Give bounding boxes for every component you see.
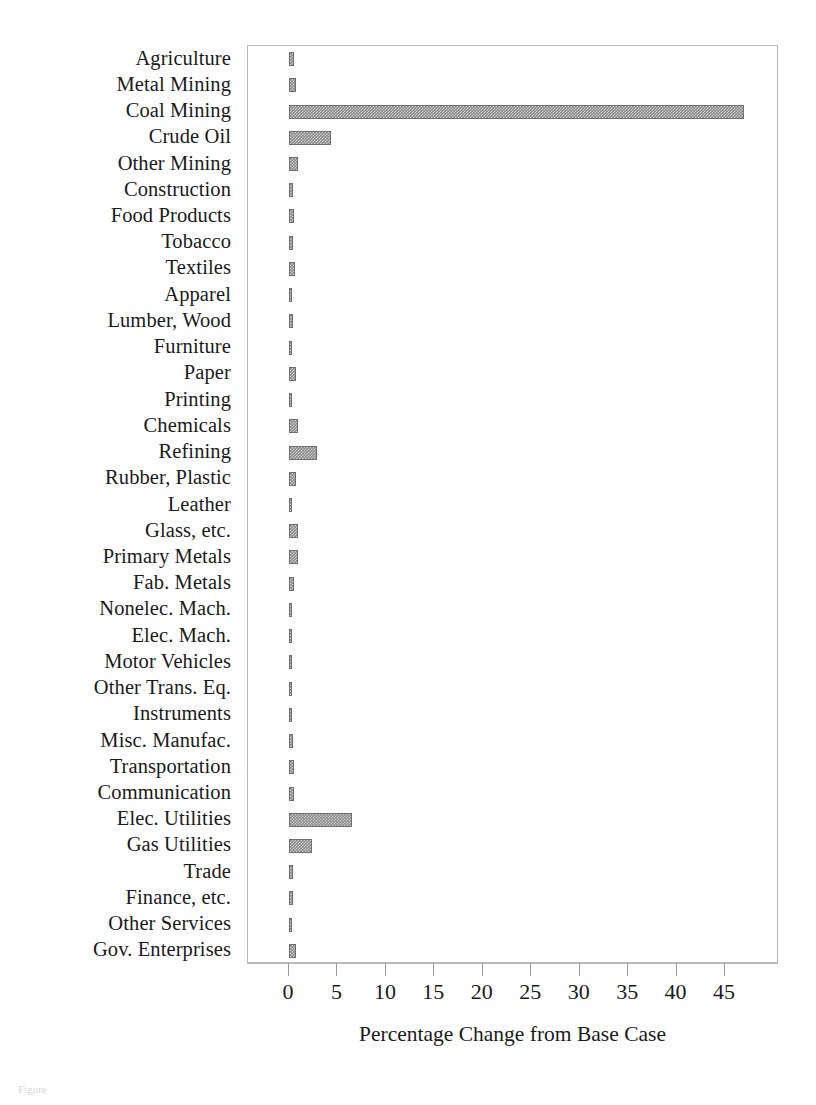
y-axis-tick-label: Nonelec. Mach. (0, 598, 231, 619)
x-axis-line (247, 963, 778, 964)
bar (289, 341, 292, 355)
x-axis-tick (385, 963, 386, 976)
figure-bar-chart: AgricultureMetal MiningCoal MiningCrude … (0, 0, 816, 1105)
bar (289, 524, 298, 538)
bar (289, 603, 292, 617)
y-axis-tick-label: Gov. Enterprises (0, 939, 231, 960)
y-axis-tick-label: Other Mining (0, 153, 231, 174)
y-axis-tick-label: Metal Mining (0, 74, 231, 95)
y-axis-tick-label: Gas Utilities (0, 834, 231, 855)
bar (289, 393, 292, 407)
bar (289, 787, 294, 801)
y-axis-tick-label: Elec. Mach. (0, 625, 231, 646)
bar (289, 472, 296, 486)
bar (289, 131, 331, 145)
y-axis-tick-label: Finance, etc. (0, 887, 231, 908)
y-axis-tick-label: Paper (0, 362, 231, 383)
bar (289, 183, 293, 197)
figure-caption: Figure (18, 1084, 47, 1095)
bar (289, 236, 293, 250)
y-axis-tick-label: Fab. Metals (0, 572, 231, 593)
y-axis-tick-label: Communication (0, 782, 231, 803)
y-axis-tick-label: Refining (0, 441, 231, 462)
plot-frame (247, 45, 778, 963)
x-axis-title: Percentage Change from Base Case (247, 1024, 778, 1046)
y-axis-category-labels: AgricultureMetal MiningCoal MiningCrude … (0, 45, 239, 963)
y-axis-tick-label: Rubber, Plastic (0, 467, 231, 488)
bar (289, 157, 298, 171)
bar (289, 629, 292, 643)
y-axis-tick-label: Lumber, Wood (0, 310, 231, 331)
x-axis-tick (336, 963, 337, 976)
bar (289, 314, 293, 328)
bar (289, 918, 292, 932)
bar (289, 446, 317, 460)
bar (289, 760, 294, 774)
y-axis-tick-label: Crude Oil (0, 126, 231, 147)
y-axis-tick-label: Elec. Utilities (0, 808, 231, 829)
x-axis-tick (288, 963, 289, 976)
y-axis-tick-label: Agriculture (0, 48, 231, 69)
bar (289, 891, 293, 905)
bar (289, 367, 296, 381)
bar (289, 262, 295, 276)
y-axis-tick-label: Textiles (0, 257, 231, 278)
bar (289, 78, 296, 92)
bar (289, 577, 294, 591)
y-axis-tick-label: Primary Metals (0, 546, 231, 567)
bar (289, 865, 293, 879)
y-axis-tick-label: Apparel (0, 284, 231, 305)
y-axis-tick-label: Motor Vehicles (0, 651, 231, 672)
y-axis-tick-label: Furniture (0, 336, 231, 357)
bar (289, 839, 312, 853)
y-axis-tick-label: Chemicals (0, 415, 231, 436)
x-axis-tick (627, 963, 628, 976)
x-axis-tick (433, 963, 434, 976)
x-axis-tick (676, 963, 677, 976)
bar (289, 105, 744, 119)
y-axis-tick-label: Instruments (0, 703, 231, 724)
x-axis-tick (724, 963, 725, 976)
bar (289, 498, 292, 512)
y-axis-tick-label: Glass, etc. (0, 520, 231, 541)
x-axis-tick (579, 963, 580, 976)
bar (289, 708, 292, 722)
bar (289, 550, 298, 564)
y-axis-tick-label: Food Products (0, 205, 231, 226)
plot-area (248, 46, 777, 962)
y-axis-tick-label: Printing (0, 389, 231, 410)
y-axis-tick-label: Trade (0, 861, 231, 882)
bar (289, 419, 298, 433)
y-axis-tick-label: Construction (0, 179, 231, 200)
y-axis-tick-label: Transportation (0, 756, 231, 777)
x-axis-tick (482, 963, 483, 976)
y-axis-tick-label: Other Trans. Eq. (0, 677, 231, 698)
bar (289, 209, 294, 223)
bar (289, 944, 296, 958)
bar (289, 52, 294, 66)
bar (289, 655, 292, 669)
bar (289, 288, 292, 302)
x-axis-tick-label: 45 (694, 981, 754, 1003)
y-axis-tick-label: Coal Mining (0, 100, 231, 121)
y-axis-tick-label: Other Services (0, 913, 231, 934)
bar (289, 682, 292, 696)
x-axis-tick (530, 963, 531, 976)
y-axis-tick-label: Leather (0, 494, 231, 515)
y-axis-tick-label: Tobacco (0, 231, 231, 252)
bar (289, 813, 352, 827)
bar (289, 734, 293, 748)
y-axis-tick-label: Misc. Manufac. (0, 730, 231, 751)
